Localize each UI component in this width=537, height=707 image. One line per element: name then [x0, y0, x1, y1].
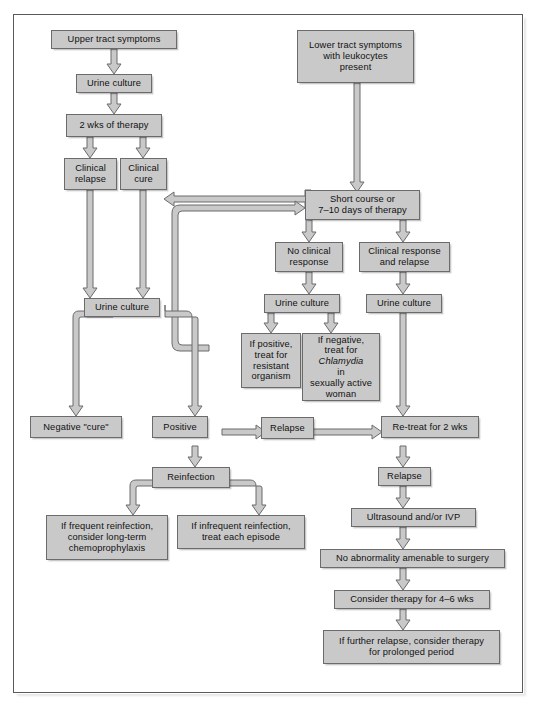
node-label-line2: and relapse	[380, 257, 430, 268]
node-positive[interactable]: Positive	[152, 416, 208, 438]
node-label-line2: treat each episode	[202, 532, 280, 543]
node-label: Urine culture	[95, 302, 149, 313]
edge-response-to-urine4	[396, 272, 410, 294]
node-label: No abnormality amenable to surgery	[336, 553, 489, 564]
edge-noabnormality-to-considertherapy	[396, 568, 410, 590]
edge-reinfection-to-infrequent	[225, 474, 266, 515]
node-label-line2: consider long-term	[68, 532, 147, 543]
node-consider-therapy-4-6[interactable]: Consider therapy for 4–6 wks	[334, 590, 490, 609]
node-label: Negative "cure"	[43, 422, 108, 433]
node-label-line3: present	[340, 62, 372, 73]
node-short-course[interactable]: Short course or 7–10 days of therapy	[305, 190, 420, 220]
node-two-wks-therapy[interactable]: 2 wks of therapy	[66, 114, 162, 137]
node-label-line2: relapse	[75, 174, 106, 185]
node-label: 2 wks of therapy	[79, 120, 148, 131]
node-label-line2: treat for	[255, 350, 288, 361]
edge-urine3-to-ifnegative	[324, 313, 338, 333]
node-if-positive-resistant[interactable]: If positive, treat for resistant organis…	[241, 333, 301, 388]
edge-shortcourse-to-response	[396, 220, 410, 242]
node-label-line2: for prolonged period	[369, 647, 454, 658]
node-re-treat-2-wks[interactable]: Re-treat for 2 wks	[381, 416, 479, 438]
edge-relapse-to-retreat	[310, 425, 382, 439]
node-label: Upper tract symptoms	[68, 34, 161, 45]
node-clinical-relapse[interactable]: Clinical relapse	[64, 158, 117, 190]
node-label-line1: If frequent reinfection,	[61, 521, 153, 532]
node-label: Ultrasound and/or IVP	[367, 512, 460, 523]
node-label-line1: Lower tract symptoms	[309, 40, 402, 51]
node-label-line2: 7–10 days of therapy	[318, 205, 407, 216]
node-no-abnormality[interactable]: No abnormality amenable to surgery	[320, 549, 505, 568]
edge-urine2-to-positive	[165, 305, 202, 416]
edge-shortcourse-to-noresponse	[302, 220, 316, 242]
edge-therapy-to-cure	[136, 137, 150, 158]
node-label: Positive	[163, 422, 196, 433]
node-label: Relapse	[387, 471, 422, 482]
node-label-line5: woman	[326, 389, 356, 400]
node-label-line1: Short course or	[330, 194, 395, 205]
node-label: Urine culture	[275, 298, 329, 309]
edge-positive-to-relapse	[222, 425, 266, 439]
node-label-line2: treat for	[325, 345, 358, 356]
node-label-line1: No clinical	[287, 246, 330, 257]
node-label-line4: sexually active	[310, 378, 372, 389]
node-reinfection[interactable]: Reinfection	[152, 467, 230, 488]
node-if-infrequent-reinfection[interactable]: If infrequent reinfection, treat each ep…	[177, 515, 305, 549]
node-label-line2: response	[290, 257, 329, 268]
node-clinical-response-and-relapse[interactable]: Clinical response and relapse	[359, 242, 450, 272]
edge-retreat-to-relapse-right	[396, 446, 410, 467]
node-label: Urine culture	[377, 298, 431, 309]
node-if-frequent-reinfection[interactable]: If frequent reinfection, consider long-t…	[46, 515, 168, 560]
node-ultrasound-ivp[interactable]: Ultrasound and/or IVP	[351, 508, 476, 527]
edge-noresponse-to-urine3	[302, 272, 316, 294]
edge-urine3-to-ifpositive	[264, 313, 278, 333]
node-label-line2: with leukocytes	[323, 51, 387, 62]
node-label-line1: If negative,	[318, 335, 365, 346]
node-if-negative-chlamydia[interactable]: If negative, treat for Chlamydia in sexu…	[302, 333, 380, 401]
edge-lower-to-shortcourse	[350, 83, 364, 192]
node-upper-tract-symptoms[interactable]: Upper tract symptoms	[51, 30, 177, 49]
node-label-line1: Clinical response	[368, 246, 440, 257]
edge-urine2-to-negativecure	[69, 305, 113, 416]
edge-considertherapy-to-further	[396, 609, 410, 630]
node-urine-culture-4[interactable]: Urine culture	[366, 294, 442, 313]
edge-positive-to-reinfection	[188, 446, 202, 467]
chlamydia-italic: Chlamydia	[319, 356, 364, 366]
node-label: Reinfection	[167, 472, 215, 483]
node-relapse-right[interactable]: Relapse	[378, 467, 431, 486]
node-label: Relapse	[270, 423, 305, 434]
node-relapse-mid[interactable]: Relapse	[261, 417, 314, 439]
edge-urine4-to-retreat	[396, 313, 410, 416]
node-label: Urine culture	[87, 78, 141, 89]
node-urine-culture-1[interactable]: Urine culture	[76, 74, 152, 93]
node-label-line1: Clinical	[128, 163, 159, 174]
node-lower-tract-symptoms[interactable]: Lower tract symptoms with leukocytes pre…	[297, 30, 414, 83]
node-label-line1: If positive,	[250, 339, 293, 350]
node-label-line1: Clinical	[75, 163, 106, 174]
edge-ultrasound-to-noabnormality	[396, 527, 410, 549]
node-negative-cure[interactable]: Negative "cure"	[30, 416, 122, 438]
node-label-line1: If further relapse, consider therapy	[339, 636, 484, 647]
edge-upper-to-urine1	[107, 49, 121, 74]
node-no-clinical-response[interactable]: No clinical response	[275, 242, 343, 272]
edge-therapy-to-relapse	[83, 137, 97, 158]
node-label: Re-treat for 2 wks	[392, 422, 467, 433]
node-urine-culture-3[interactable]: Urine culture	[264, 294, 340, 313]
node-if-further-relapse[interactable]: If further relapse, consider therapy for…	[323, 630, 500, 664]
node-clinical-cure[interactable]: Clinical cure	[120, 158, 167, 190]
edge-urine1-to-therapy	[107, 93, 121, 114]
node-label-line3: Chlamydia in	[319, 356, 364, 378]
node-label-line3: resistant	[253, 361, 289, 372]
node-label-line1: If infrequent reinfection,	[191, 521, 291, 532]
flowchart-page: .arw { fill:#c9c9c9; stroke:#6b6b6b; str…	[0, 0, 537, 707]
node-label-line2: cure	[134, 174, 152, 185]
node-urine-culture-2[interactable]: Urine culture	[84, 298, 160, 317]
node-label-line3: chemoprophylaxis	[69, 543, 145, 554]
edge-relapse-to-ultrasound	[396, 486, 410, 508]
node-label-line4: organism	[252, 371, 291, 382]
node-label: Consider therapy for 4–6 wks	[350, 594, 474, 605]
edge-cure-to-urine2	[136, 190, 150, 298]
edge-relapse-to-urine2	[83, 190, 97, 298]
